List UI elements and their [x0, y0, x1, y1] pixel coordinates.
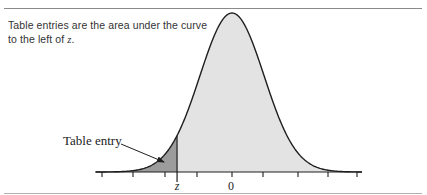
- z-axis-label: z: [174, 179, 180, 193]
- axis-ticks: [102, 172, 357, 177]
- zero-axis-label: 0: [228, 179, 234, 193]
- annotation-arrow: [121, 144, 164, 162]
- normal-curve-figure: Table entry z 0: [0, 0, 427, 195]
- bottom-rule: [4, 193, 422, 194]
- table-entry-label: Table entry: [63, 133, 122, 148]
